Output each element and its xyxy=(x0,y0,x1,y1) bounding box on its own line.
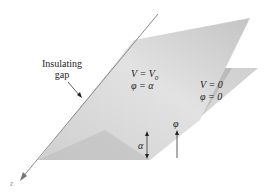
upper-plane-voltage-text: V = V xyxy=(131,68,155,79)
gap-label-line2: gap xyxy=(38,69,86,80)
z-axis-label: z xyxy=(10,178,13,189)
phi-angle-label: φ xyxy=(173,118,179,129)
lower-plane-phi: φ = 0 xyxy=(200,91,222,102)
diagram-canvas xyxy=(0,0,270,192)
upper-plane-voltage-sub: 0 xyxy=(155,74,159,82)
upper-plane-phi: φ = α xyxy=(131,80,154,91)
gap-label-line1: Insulating xyxy=(38,58,86,69)
alpha-angle-label: α xyxy=(138,140,143,151)
insulating-gap-label: Insulating gap xyxy=(38,58,86,80)
lower-plane-voltage: V = 0 xyxy=(200,79,223,90)
